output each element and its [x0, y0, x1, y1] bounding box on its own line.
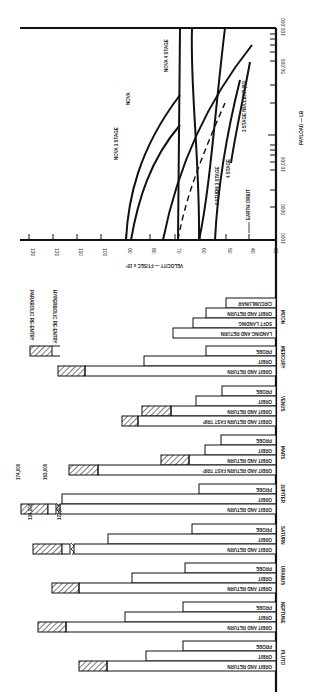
- svg-text:PARABOLIC RE-ENTRY: PARABOLIC RE-ENTRY: [29, 290, 34, 341]
- svg-text:NEPTUNE: NEPTUNE: [280, 602, 285, 624]
- svg-text:ORBIT: ORBIT: [258, 497, 272, 502]
- svg-text:ORBIT AND RETURN FAST TRIP: ORBIT AND RETURN FAST TRIP: [203, 468, 272, 473]
- svg-text:ORBIT: ORBIT: [258, 654, 272, 659]
- svg-text:JUPITER: JUPITER: [280, 484, 285, 504]
- svg-text:CIRCUMLUNAR: CIRCUMLUNAR: [238, 301, 272, 306]
- svg-text:SATURN: SATURN: [280, 526, 285, 544]
- label-nova: NOVA: [126, 92, 131, 105]
- legend-parabolic-swatch: [30, 346, 52, 356]
- label-earth-orbit: EARTH ORBIT: [246, 189, 251, 220]
- svg-text:ORBIT: ORBIT: [258, 576, 272, 581]
- velocity-axis-label: VELOCITY — FT/SEC x 10³: [126, 263, 183, 268]
- curve-nova-3-stage-lower: [131, 125, 180, 240]
- label-4-stage: 4 STAGE: [226, 159, 231, 178]
- svg-text:ORBIT AND RETURN: ORBIT AND RETURN: [227, 369, 272, 374]
- rotated-chart: 130 120 110 100 90 80 70 60 50 40 30 VEL…: [0, 0, 309, 700]
- payload-tick-labels: 1000 5000 10,000 50,000 100,000: [280, 18, 286, 244]
- svg-text:100: 100: [102, 248, 108, 257]
- svg-text:PROBE: PROBE: [256, 527, 272, 532]
- payload-ticks: [268, 34, 276, 207]
- svg-text:PROBE: PROBE: [256, 644, 272, 649]
- svg-text:ORBIT: ORBIT: [258, 359, 272, 364]
- svg-text:50: 50: [227, 248, 233, 254]
- svg-text:ORBIT AND RETURN: ORBIT AND RETURN: [227, 664, 272, 669]
- annotation-174000: 174,000: [16, 463, 21, 480]
- svg-text:80: 80: [151, 248, 157, 254]
- legend-hyperbolic-swatch: [52, 346, 60, 356]
- svg-text:ORBIT AND RETURN: ORBIT AND RETURN: [227, 458, 272, 463]
- svg-text:10,000: 10,000: [280, 156, 286, 172]
- label-nova-3-stage: NOVA 3 STAGE: [114, 127, 119, 160]
- mission-bars: [21, 298, 276, 671]
- svg-text:MARS: MARS: [280, 446, 285, 459]
- svg-text:ORBIT: ORBIT: [258, 537, 272, 542]
- svg-text:40: 40: [250, 248, 256, 254]
- svg-text:ORBIT AND RETURN: ORBIT AND RETURN: [227, 625, 272, 630]
- annotation-163000: 163,000: [43, 463, 48, 480]
- svg-text:ORBIT: ORBIT: [258, 399, 272, 404]
- svg-text:MOON: MOON: [280, 310, 285, 324]
- svg-text:120: 120: [54, 248, 60, 257]
- svg-text:ORBIT: ORBIT: [258, 448, 272, 453]
- svg-text:100,000: 100,000: [280, 18, 286, 36]
- svg-text:MERCURY: MERCURY: [280, 346, 285, 369]
- payload-axis-label: PAYLOAD — LB: [299, 110, 304, 145]
- velocity-tick-labels: 130 120 110 100 90 80 70 60 50 40 30: [30, 248, 279, 257]
- svg-text:ORBIT AND RETURN: ORBIT AND RETURN: [227, 507, 272, 512]
- svg-text:PROBE: PROBE: [256, 566, 272, 571]
- label-nova-4-stage: NOVA 4 STAGE: [164, 39, 169, 72]
- svg-text:PROBE: PROBE: [256, 605, 272, 610]
- svg-text:ORBIT: ORBIT: [258, 615, 272, 620]
- legend: PARABOLIC RE-ENTRY HYPERBOLIC RE-ENTRY: [29, 290, 60, 356]
- svg-text:ORBIT AND RETURN: ORBIT AND RETURN: [227, 409, 272, 414]
- group-labels: MOON MERCURY VENUS MARS JUPITER SATURN U…: [280, 310, 285, 666]
- svg-text:110: 110: [78, 248, 84, 256]
- svg-text:PLUTO: PLUTO: [280, 650, 285, 666]
- svg-text:LANDING AND RETURN: LANDING AND RETURN: [221, 331, 272, 336]
- svg-text:PROBE: PROBE: [256, 349, 272, 354]
- svg-text:5000: 5000: [280, 204, 286, 215]
- annotation-122000: 122,000: [57, 503, 62, 520]
- svg-text:60: 60: [201, 248, 207, 254]
- svg-text:130: 130: [30, 248, 36, 257]
- svg-text:VENUS: VENUS: [280, 396, 285, 412]
- svg-text:ORBIT AND RETURN: ORBIT AND RETURN: [227, 586, 272, 591]
- svg-text:ORBIT AND RETURN FAST TRIP: ORBIT AND RETURN FAST TRIP: [203, 419, 272, 424]
- curve-nuclear: [231, 62, 250, 163]
- svg-text:PROBE: PROBE: [256, 487, 272, 492]
- svg-text:ORBIT AND RETURN: ORBIT AND RETURN: [227, 311, 272, 316]
- svg-text:ORBIT AND RETURN: ORBIT AND RETURN: [227, 547, 272, 552]
- svg-text:30: 30: [273, 248, 279, 254]
- svg-text:URANUS: URANUS: [280, 566, 285, 585]
- curve-nova-4-stage: [178, 28, 180, 240]
- svg-text:90: 90: [127, 248, 133, 254]
- annotation-134000: 134,000: [28, 503, 33, 520]
- svg-text:PROBE: PROBE: [256, 389, 272, 394]
- label-saturn-3-stage: SATURN 3 STAGE: [215, 166, 220, 205]
- svg-text:PROBE: PROBE: [256, 438, 272, 443]
- svg-text:1000: 1000: [280, 233, 286, 244]
- svg-text:70: 70: [176, 248, 182, 254]
- svg-text:SOFT LANDING: SOFT LANDING: [238, 321, 272, 326]
- label-nuclear: 3 STAGE NUCLEAR (80): [242, 80, 247, 132]
- performance-curves: [126, 28, 252, 240]
- svg-text:HYPERBOLIC RE-ENTRY: HYPERBOLIC RE-ENTRY: [52, 290, 57, 344]
- svg-text:50,000: 50,000: [280, 58, 286, 74]
